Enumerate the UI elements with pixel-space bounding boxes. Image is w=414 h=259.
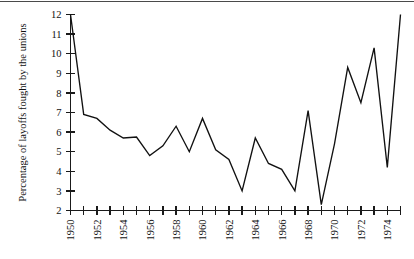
y-tick-label: 11 — [51, 29, 61, 40]
y-tick-label: 10 — [51, 48, 62, 59]
x-tick-label: 1956 — [145, 220, 156, 241]
x-tick-label: 1952 — [92, 220, 103, 241]
line-chart: 23456789101112 1950195219541956195819601… — [0, 0, 414, 259]
y-tick-label: 7 — [56, 107, 61, 118]
data-line-series — [71, 15, 401, 205]
y-tick-label: 3 — [56, 186, 61, 197]
x-tick-label: 1964 — [250, 219, 261, 241]
y-tick-label: 12 — [51, 9, 62, 20]
y-axis-title: Percentage of layoffs fought by the unio… — [17, 23, 28, 201]
chart-figure: 23456789101112 1950195219541956195819601… — [0, 0, 414, 259]
x-tick-label: 1962 — [224, 220, 235, 241]
x-axis: 1950195219541956195819601962196419661968… — [65, 206, 400, 241]
y-tick-label: 2 — [56, 205, 61, 216]
y-tick-label: 9 — [56, 68, 61, 79]
y-axis-title-text: Percentage of layoffs fought by the unio… — [17, 23, 28, 201]
x-tick-label: 1954 — [118, 219, 129, 241]
x-tick-label: 1958 — [171, 220, 182, 241]
x-tick-label: 1972 — [356, 220, 367, 241]
y-tick-label: 5 — [56, 146, 61, 157]
x-tick-label: 1968 — [303, 220, 314, 241]
y-tick-label: 4 — [56, 166, 62, 177]
x-tick-label: 1966 — [277, 220, 288, 241]
x-tick-label: 1960 — [197, 220, 208, 241]
y-tick-label: 8 — [56, 88, 61, 99]
y-axis: 23456789101112 — [51, 9, 75, 216]
y-tick-label: 6 — [56, 127, 61, 138]
x-tick-label: 1970 — [329, 220, 340, 241]
data-series-layer — [71, 15, 401, 205]
x-tick-label: 1950 — [65, 220, 76, 241]
x-tick-label: 1974 — [382, 219, 393, 241]
